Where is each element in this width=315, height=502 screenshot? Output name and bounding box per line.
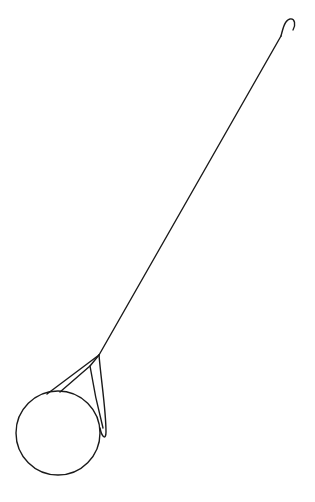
wire <box>99 36 281 355</box>
line-drawing <box>0 0 315 502</box>
ball <box>16 391 100 475</box>
hook-icon <box>281 19 295 36</box>
